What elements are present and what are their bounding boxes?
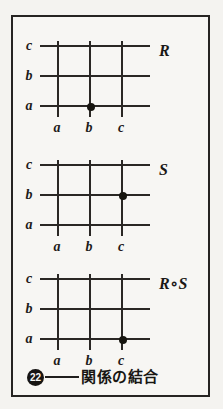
relation-name-s: S xyxy=(159,162,168,178)
grid-vline-a xyxy=(57,41,59,117)
row-label-c: c xyxy=(21,158,37,172)
relation-point xyxy=(119,336,127,344)
col-label-b: b xyxy=(81,121,97,135)
row-label-c: c xyxy=(21,272,37,286)
relation-panel-s: c b a a b c S xyxy=(13,146,212,258)
relation-panel-rs: c b a a b c R∘S xyxy=(13,260,212,372)
grid-vline-a xyxy=(57,274,59,350)
row-label-b: b xyxy=(21,188,37,202)
relation-panel-r: c b a a b c R xyxy=(13,27,212,139)
relation-name-r: R xyxy=(159,43,170,59)
figure-frame: c b a a b c R c b a xyxy=(11,15,210,397)
row-label-b: b xyxy=(21,69,37,83)
grid-vline-b xyxy=(89,274,91,350)
col-label-a: a xyxy=(49,240,65,254)
grid-vline-b xyxy=(89,160,91,236)
col-label-c: c xyxy=(113,121,129,135)
col-label-a: a xyxy=(49,121,65,135)
grid-vline-c xyxy=(121,41,123,117)
figure-caption: 22 関係の結合 xyxy=(27,365,159,389)
relation-grid xyxy=(40,274,150,350)
col-label-c: c xyxy=(113,240,129,254)
relation-grid xyxy=(40,160,150,236)
relation-grid xyxy=(40,41,150,117)
row-label-a: a xyxy=(21,332,37,346)
row-label-a: a xyxy=(21,99,37,113)
figure-root: c b a a b c R c b a xyxy=(0,0,223,409)
col-label-b: b xyxy=(81,240,97,254)
relation-name-rs: R∘S xyxy=(159,276,188,292)
caption-dash xyxy=(45,376,79,378)
row-label-c: c xyxy=(21,39,37,53)
row-label-b: b xyxy=(21,302,37,316)
relation-point xyxy=(87,103,95,111)
figure-number-badge: 22 xyxy=(27,369,44,386)
caption-label: 関係の結合 xyxy=(81,368,159,386)
row-label-a: a xyxy=(21,218,37,232)
grid-vline-a xyxy=(57,160,59,236)
relation-point xyxy=(119,192,127,200)
